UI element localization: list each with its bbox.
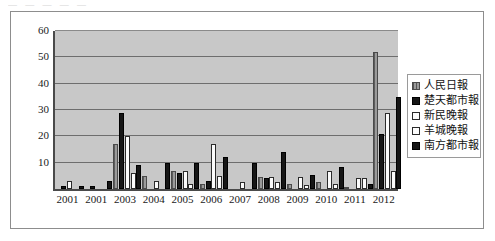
y-axis-tick-label: 10 <box>19 156 49 168</box>
bar <box>385 113 390 189</box>
bar <box>391 171 396 189</box>
bar <box>316 182 321 189</box>
bar <box>252 163 257 189</box>
bar <box>217 176 222 189</box>
bar-groups <box>55 31 398 189</box>
bar <box>362 178 367 189</box>
x-axis-tick-label: 2010 <box>312 193 341 205</box>
x-axis-tick-label: 2004 <box>139 193 168 205</box>
legend-item-label: 楚天都市報 <box>424 95 479 106</box>
bar <box>90 186 95 189</box>
bar <box>194 163 199 189</box>
x-axis-tick-label: 2011 <box>341 193 370 205</box>
y-axis-tick-label: 30 <box>19 103 49 115</box>
legend-item-label: 新民晚報 <box>424 110 468 121</box>
bar <box>304 185 309 189</box>
bar <box>177 173 182 189</box>
x-axis-tick-label: 2007 <box>226 193 255 205</box>
bar <box>119 113 124 189</box>
x-axis-tick-labels: 2001200120032004200520062007200820092010… <box>53 193 398 205</box>
bar <box>339 167 344 189</box>
bar <box>200 184 205 189</box>
legend-item-label: 南方都市報 <box>424 140 479 151</box>
bar <box>131 173 136 189</box>
bar <box>113 144 118 189</box>
bar <box>287 184 292 189</box>
bar-group <box>84 31 113 189</box>
bar <box>275 182 280 189</box>
bar-group <box>55 31 84 189</box>
bar-group <box>373 31 402 189</box>
bar <box>183 171 188 189</box>
bar <box>79 186 84 189</box>
legend-item-label: 人民日報 <box>424 80 468 91</box>
legend-item[interactable]: 南方都市報 <box>412 138 477 153</box>
legend-swatch-icon <box>412 97 420 105</box>
x-axis-tick-label: 2009 <box>283 193 312 205</box>
chart-frame: 0102030405060 20012001200320042005200620… <box>10 11 484 229</box>
legend-item[interactable]: 人民日報 <box>412 78 477 93</box>
legend-swatch-icon <box>412 127 420 135</box>
bar <box>269 177 274 189</box>
bar <box>61 186 66 189</box>
plot-area: 0102030405060 <box>53 31 398 191</box>
legend-swatch-icon <box>412 142 420 150</box>
chart-legend: 人民日報楚天都市報新民晚報羊城晚報南方都市報 <box>407 74 481 158</box>
bar <box>223 157 228 189</box>
bar-group <box>344 31 373 189</box>
bar <box>368 184 373 189</box>
x-axis-tick-label: 2012 <box>369 193 398 205</box>
y-axis-tick-label: 60 <box>19 24 49 36</box>
bar <box>107 181 112 189</box>
bar <box>281 152 286 189</box>
bar <box>125 136 130 189</box>
bar <box>136 165 141 189</box>
x-axis-tick-label: 2005 <box>168 193 197 205</box>
x-axis-tick-label: 2001 <box>82 193 111 205</box>
bar-group <box>286 31 315 189</box>
bar <box>206 181 211 189</box>
bar <box>240 182 245 189</box>
y-axis-tick-label: 40 <box>19 77 49 89</box>
legend-item[interactable]: 新民晚報 <box>412 108 477 123</box>
bar <box>171 171 176 189</box>
bar-group <box>171 31 200 189</box>
bar <box>327 171 332 189</box>
bar <box>264 178 269 189</box>
bar <box>165 163 170 189</box>
bar-group <box>142 31 171 189</box>
bar <box>356 178 361 189</box>
bar <box>310 175 315 189</box>
bar-group <box>315 31 344 189</box>
bar <box>188 184 193 189</box>
x-axis-tick-label: 2001 <box>53 193 82 205</box>
legend-swatch-icon <box>412 112 420 120</box>
bar <box>298 177 303 189</box>
clipped-text-fragment: — — — — — <box>8 0 178 9</box>
x-axis-tick-label: 2003 <box>111 193 140 205</box>
bar-group <box>257 31 286 189</box>
bar <box>396 97 401 189</box>
legend-swatch-icon <box>412 82 420 90</box>
y-axis-tick-label: 50 <box>19 50 49 62</box>
bar <box>142 176 147 189</box>
x-axis-tick-label: 2006 <box>197 193 226 205</box>
bar <box>211 144 216 189</box>
bar-group <box>228 31 257 189</box>
bar <box>258 177 263 189</box>
legend-item[interactable]: 楚天都市報 <box>412 93 477 108</box>
legend-item-label: 羊城晚報 <box>424 125 468 136</box>
bar <box>333 184 338 189</box>
y-axis-tick-label: 20 <box>19 129 49 141</box>
bar <box>379 134 384 189</box>
bar <box>154 181 159 189</box>
legend-item[interactable]: 羊城晚報 <box>412 123 477 138</box>
x-axis-tick-label: 2008 <box>254 193 283 205</box>
bar-group <box>113 31 142 189</box>
bar-group <box>200 31 229 189</box>
bar <box>344 187 349 189</box>
bar <box>373 52 378 189</box>
bar <box>67 181 72 189</box>
